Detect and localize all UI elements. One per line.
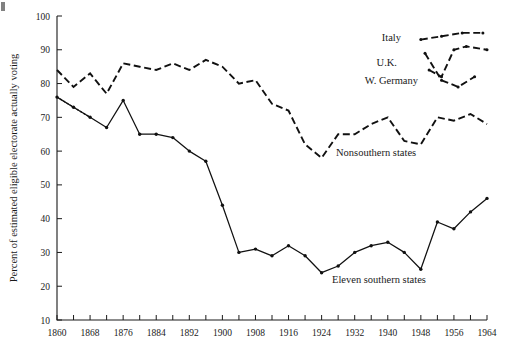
data-point-marker: [419, 268, 422, 271]
series-line-nonsouthern-states: [57, 60, 487, 158]
data-point-marker: [485, 197, 488, 200]
data-point-marker: [452, 227, 455, 230]
y-axis-tick-label: 90: [41, 45, 51, 55]
y-axis-tick-label: 20: [41, 282, 51, 292]
data-point-marker: [386, 241, 389, 244]
data-point-marker: [353, 251, 356, 254]
voter-turnout-chart: 1020304050607080901001860186818761884189…: [0, 0, 505, 345]
data-point-marker: [457, 85, 460, 88]
data-point-marker: [440, 35, 443, 38]
x-axis-tick-label: 1916: [279, 328, 298, 338]
page-corner-mark: [1, 2, 5, 11]
data-point-marker: [452, 48, 455, 51]
data-point-marker: [403, 251, 406, 254]
x-axis-tick-label: 1868: [81, 328, 100, 338]
data-point-marker: [221, 204, 224, 207]
data-point-marker: [424, 52, 427, 55]
data-point-marker: [440, 79, 443, 82]
x-axis-tick-label: 1908: [246, 328, 265, 338]
data-point-marker: [428, 69, 431, 72]
y-axis-tick-label: 60: [41, 147, 51, 157]
y-axis-title: Percent of estimated eligible electorate…: [8, 53, 19, 282]
x-axis-tick-label: 1892: [180, 328, 199, 338]
x-axis-tick-label: 1900: [213, 328, 232, 338]
data-point-marker: [204, 160, 207, 163]
data-point-marker: [254, 247, 257, 250]
data-point-marker: [465, 45, 468, 48]
data-point-marker: [105, 126, 108, 129]
x-axis-tick-label: 1948: [411, 328, 430, 338]
x-axis-tick-label: 1884: [147, 328, 166, 338]
data-point-marker: [237, 251, 240, 254]
data-point-marker: [469, 210, 472, 213]
series-line-u-k: [429, 46, 487, 76]
data-point-marker: [270, 254, 273, 257]
x-axis-tick-label: 1876: [114, 328, 133, 338]
data-point-marker: [419, 38, 422, 41]
data-point-marker: [436, 220, 439, 223]
series-line-eleven-southern-states: [57, 97, 487, 273]
x-axis-tick-label: 1964: [478, 328, 497, 338]
y-axis-tick-label: 100: [36, 12, 51, 22]
data-point-marker: [171, 136, 174, 139]
data-point-marker: [337, 264, 340, 267]
data-point-marker: [473, 75, 476, 78]
series-label-eleven-southern-states: Eleven southern states: [332, 274, 426, 285]
data-point-marker: [287, 244, 290, 247]
data-point-marker: [320, 271, 323, 274]
data-point-marker: [155, 133, 158, 136]
data-point-marker: [370, 244, 373, 247]
x-axis-tick-label: 1956: [444, 328, 463, 338]
data-point-marker: [486, 48, 489, 51]
series-label-nonsouthern-states: Nonsouthern states: [336, 147, 416, 158]
data-point-marker: [138, 133, 141, 136]
data-point-marker: [303, 254, 306, 257]
chart-svg: 1020304050607080901001860186818761884189…: [0, 0, 505, 345]
y-axis-tick-label: 50: [41, 180, 51, 190]
x-axis-tick-label: 1940: [378, 328, 397, 338]
series-label-uk: U.K.: [377, 57, 397, 68]
series-dotted-interpolation: [57, 97, 90, 117]
data-point-marker: [461, 31, 464, 34]
x-axis-tick-label: 1860: [48, 328, 67, 338]
x-axis-tick-label: 1924: [312, 328, 331, 338]
series-label-w-germany: W. Germany: [365, 75, 419, 86]
series-line-italy: [421, 33, 483, 40]
data-point-marker: [122, 99, 125, 102]
y-axis-tick-label: 40: [41, 214, 51, 224]
x-axis-tick-label: 1932: [345, 328, 364, 338]
y-axis-tick-label: 30: [41, 248, 51, 258]
y-axis-tick-label: 70: [41, 113, 51, 123]
series-label-italy: Italy: [382, 32, 402, 43]
y-axis-tick-label: 80: [41, 79, 51, 89]
data-point-marker: [188, 149, 191, 152]
data-point-marker: [481, 31, 484, 34]
y-axis-tick-label: 10: [41, 316, 51, 326]
data-point-marker: [88, 116, 91, 119]
